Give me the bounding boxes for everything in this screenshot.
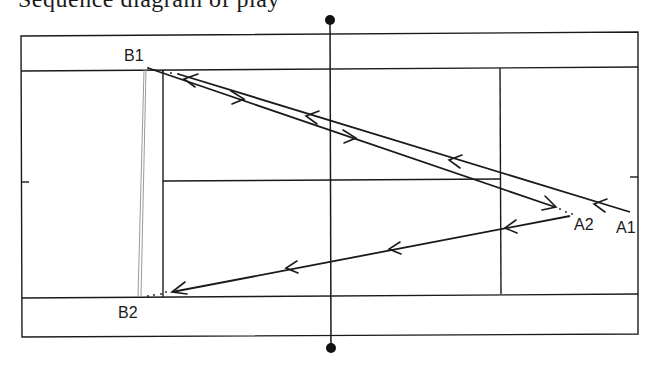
arrow-left-icon [286, 261, 298, 273]
net [325, 15, 336, 353]
tennis-court-diagram: B1 B2 A2 A1 [0, 0, 651, 367]
service-line-right [500, 68, 501, 294]
net-line [330, 20, 331, 348]
center-service-line [163, 179, 500, 181]
label-a1: A1 [616, 219, 636, 236]
label-b1: B1 [124, 47, 144, 64]
shot-a1-to-b1 [178, 74, 630, 212]
net-post-top [325, 15, 335, 25]
label-b2: B2 [118, 304, 138, 321]
singles-sideline-bottom [22, 294, 638, 298]
label-a2: A2 [574, 216, 594, 233]
player-b-movement [138, 70, 146, 296]
shot-a2-to-b2 [172, 216, 570, 292]
net-post-bottom [326, 343, 336, 353]
arrowheads [172, 74, 607, 294]
dotted-bounce-marks [147, 67, 573, 297]
shot-b1-to-a2 [148, 68, 555, 207]
arrow-left-icon [172, 282, 187, 294]
